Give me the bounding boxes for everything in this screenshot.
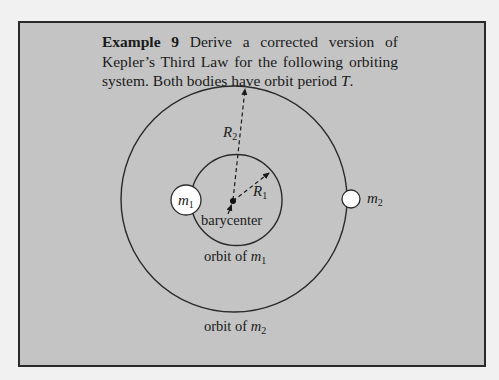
barycenter-dot (230, 198, 236, 204)
r2-radius-arrow (233, 89, 245, 200)
outer-orbit-label: orbit of m2 (204, 318, 266, 336)
barycenter-label: barycenter (201, 212, 262, 228)
r2-label: R2 (222, 124, 237, 142)
body-m2-circle (342, 190, 360, 208)
r1-label: R1 (252, 183, 267, 201)
orbit-diagram: m1 m2 R2 R1 barycenter orbit of m1 orbit… (0, 0, 499, 380)
inner-orbit-circle (191, 155, 282, 246)
body-m2-label: m2 (367, 190, 383, 208)
inner-orbit-label: orbit of m1 (204, 248, 266, 266)
